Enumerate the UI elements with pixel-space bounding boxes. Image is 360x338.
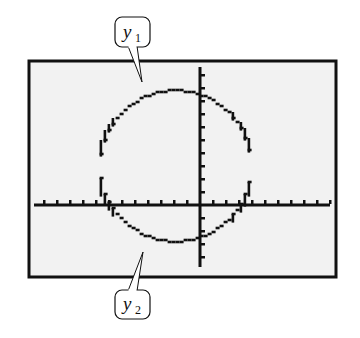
callout-y1-subscript: 1 [135, 31, 141, 45]
y-tick [201, 256, 205, 259]
x-tick [316, 200, 319, 204]
x-tick [329, 200, 332, 204]
x-tick [290, 200, 293, 204]
x-tick [43, 200, 46, 204]
x-tick [160, 200, 163, 204]
y-tick [201, 243, 205, 246]
y-tick [201, 87, 205, 90]
x-tick [277, 200, 280, 204]
y-tick [201, 191, 205, 194]
y-tick [201, 100, 205, 103]
y-tick [201, 113, 205, 116]
x-tick [303, 200, 306, 204]
y-tick [201, 126, 205, 129]
x-tick [147, 200, 150, 204]
x-tick [264, 200, 267, 204]
callout-y2-box [115, 290, 150, 319]
y-tick [201, 139, 205, 142]
x-tick [186, 200, 189, 204]
y-tick [201, 152, 205, 155]
callout-y2-subscript: 2 [135, 303, 141, 317]
callout-y1-var: y [121, 21, 132, 42]
x-tick [95, 200, 98, 204]
y-tick [201, 217, 205, 220]
y-tick [201, 165, 205, 168]
callout-y2-var: y [121, 293, 132, 314]
callout-y1-box [115, 17, 150, 47]
calculator-screen [29, 61, 336, 277]
x-tick [82, 200, 85, 204]
y-tick [201, 178, 205, 181]
x-tick [225, 200, 228, 204]
x-tick [134, 200, 137, 204]
calculator-graph-figure: y 1 y 2 [0, 0, 360, 338]
x-tick [69, 200, 72, 204]
x-tick [56, 200, 59, 204]
y-tick [201, 230, 205, 233]
y-tick [201, 74, 205, 77]
x-tick [251, 200, 254, 204]
x-axis [34, 204, 330, 207]
graph-canvas: y 1 y 2 [0, 0, 360, 338]
x-tick [212, 200, 215, 204]
x-tick [173, 200, 176, 204]
x-tick [121, 200, 124, 204]
